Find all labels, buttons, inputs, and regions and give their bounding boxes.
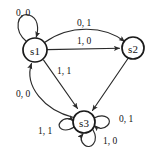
- node-s2-label: s2: [128, 43, 138, 55]
- edge-label-s3-self-bottom: 1, 0: [103, 136, 118, 146]
- edge-label-s1-s2-straight: 1, 0: [77, 36, 92, 46]
- edge-s3-to-s3-left: 1, 1: [38, 119, 75, 136]
- edge-s3-to-s3-right: 0, 1: [94, 114, 134, 128]
- edge-path-s2-s3: [93, 58, 129, 111]
- edge-s2-to-s3: [93, 58, 129, 111]
- edge-s1-to-s3: 1, 1: [44, 60, 78, 108]
- edge-label-s3-s1: 0, 0: [16, 89, 31, 99]
- edge-label-s1-s2-arc: 0, 1: [77, 18, 92, 28]
- edge-label-s1-s3: 1, 1: [57, 66, 72, 76]
- edge-path-s1-s2-straight: [47, 48, 119, 49]
- edge-path-s3-self-right: [94, 116, 110, 128]
- node-s3[interactable]: s3: [73, 111, 95, 133]
- edge-label-s1-self: 0, 0: [16, 8, 31, 18]
- node-s2[interactable]: s2: [122, 37, 144, 59]
- edge-s1-to-s2-straight: 1, 0: [47, 36, 119, 50]
- edge-label-s3-self-left: 1, 1: [38, 126, 53, 136]
- fsm-canvas: 0, 0 0, 1 1, 0 1, 1 0, 0: [0, 0, 153, 153]
- node-s3-label: s3: [79, 117, 89, 129]
- state-machine-diagram: 0, 0 0, 1 1, 0 1, 1 0, 0: [0, 0, 153, 153]
- node-s1[interactable]: s1: [23, 38, 47, 62]
- edge-label-s3-self-right: 0, 1: [119, 114, 134, 124]
- node-s1-label: s1: [30, 45, 40, 57]
- edge-s1-to-s1: 0, 0: [16, 8, 38, 42]
